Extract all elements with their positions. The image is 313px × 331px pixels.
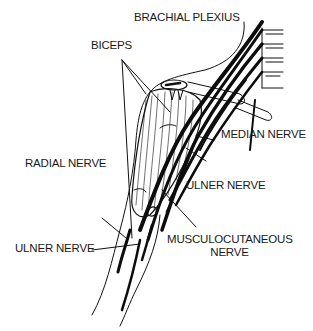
arm-nerves-diagram: BRACHIAL PLEXIUS BICEPS MEDIAN NERVE RAD… xyxy=(0,0,313,331)
label-musculocutaneous-line1: MUSCULOCUTANEOUS xyxy=(167,233,292,246)
label-radial-nerve: RADIAL NERVE xyxy=(25,157,106,170)
label-musculocutaneous-line2: NERVE xyxy=(167,246,292,259)
shoulder-outline xyxy=(92,22,244,315)
plexus-roots xyxy=(262,28,283,88)
label-ulner-nerve-upper: ULNER NERVE xyxy=(186,179,265,192)
label-musculocutaneous-nerve: MUSCULOCUTANEOUS NERVE xyxy=(167,233,292,259)
label-ulner-nerve-lower: ULNER NERVE xyxy=(15,242,94,255)
label-median-nerve: MEDIAN NERVE xyxy=(221,128,306,141)
label-brachial-plexus: BRACHIAL PLEXIUS xyxy=(134,11,240,24)
label-biceps: BICEPS xyxy=(91,39,132,52)
